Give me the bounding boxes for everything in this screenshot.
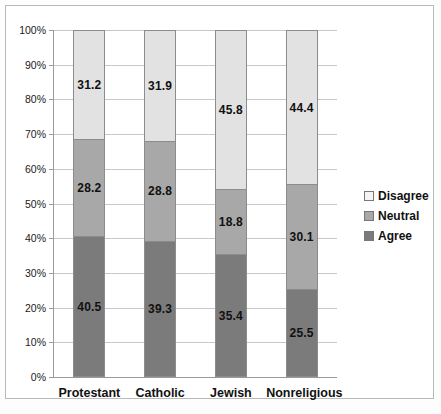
bar-value-label: 44.4 (290, 101, 314, 115)
y-axis-tick (49, 30, 54, 31)
bar-segment-agree[interactable]: 25.5 (286, 289, 318, 377)
category-label: Protestant (54, 386, 125, 400)
y-axis-tick (49, 377, 54, 378)
bar-value-label: 25.5 (290, 326, 314, 340)
chart-frame: 0%10%20%30%40%50%60%70%80%90%100% 40.528… (5, 5, 434, 399)
bar-value-label: 40.5 (77, 300, 101, 314)
y-axis-tick-label: 60% (25, 163, 46, 175)
y-axis-tick (49, 238, 54, 239)
bar-segment-disagree[interactable]: 45.8 (215, 30, 247, 189)
y-axis-tick-label: 50% (25, 198, 46, 210)
y-axis-tick-label: 100% (19, 24, 46, 36)
y-axis-tick (49, 273, 54, 274)
bar-value-label: 39.3 (148, 302, 172, 316)
category-label: Catholic (125, 386, 196, 400)
legend-label: Neutral (378, 209, 419, 223)
bar-segment-neutral[interactable]: 30.1 (286, 184, 318, 288)
bar-segment-neutral[interactable]: 28.2 (73, 139, 105, 237)
category-label: Jewish (195, 386, 266, 400)
legend-item-agree[interactable]: Agree (364, 229, 429, 243)
y-axis-tick-label: 30% (25, 267, 46, 279)
bar-segment-disagree[interactable]: 31.2 (73, 30, 105, 138)
bar-segment-agree[interactable]: 39.3 (144, 241, 176, 377)
y-axis-tick-label: 20% (25, 302, 46, 314)
bar-segment-agree[interactable]: 40.5 (73, 236, 105, 377)
bar-value-label: 28.8 (148, 184, 172, 198)
y-axis-tick (49, 99, 54, 100)
y-axis-tick (49, 169, 54, 170)
legend-swatch-icon (364, 191, 374, 201)
y-axis-tick-label: 90% (25, 59, 46, 71)
y-axis-tick (49, 65, 54, 66)
category-label: Nonreligious (266, 386, 337, 400)
chart-legend: DisagreeNeutralAgree (364, 189, 429, 249)
legend-item-disagree[interactable]: Disagree (364, 189, 429, 203)
bar-segment-agree[interactable]: 35.4 (215, 254, 247, 377)
bar-value-label: 30.1 (290, 230, 314, 244)
legend-label: Agree (378, 229, 412, 243)
y-axis-tick-label: 10% (25, 336, 46, 348)
y-axis-tick (49, 342, 54, 343)
bar-segment-disagree[interactable]: 44.4 (286, 30, 318, 184)
y-axis-tick-label: 80% (25, 93, 46, 105)
y-axis-tick-label: 70% (25, 128, 46, 140)
legend-swatch-icon (364, 211, 374, 221)
legend-item-neutral[interactable]: Neutral (364, 209, 429, 223)
bar-value-label: 18.8 (219, 215, 243, 229)
y-axis-tick-label: 40% (25, 232, 46, 244)
stacked-bar[interactable]: 40.528.231.2 (73, 30, 105, 377)
y-axis-tick (49, 134, 54, 135)
bar-segment-disagree[interactable]: 31.9 (144, 30, 176, 141)
legend-swatch-icon (364, 231, 374, 241)
bar-value-label: 28.2 (77, 181, 101, 195)
stacked-bar[interactable]: 39.328.831.9 (144, 30, 176, 377)
bar-segment-neutral[interactable]: 18.8 (215, 189, 247, 254)
y-axis-tick (49, 308, 54, 309)
legend-label: Disagree (378, 189, 429, 203)
stacked-bar[interactable]: 35.418.845.8 (215, 30, 247, 377)
y-axis-tick-label: 0% (31, 371, 46, 383)
bar-value-label: 35.4 (219, 309, 243, 323)
stacked-bar[interactable]: 25.530.144.4 (286, 30, 318, 377)
bar-value-label: 31.9 (148, 79, 172, 93)
plot-area: 0%10%20%30%40%50%60%70%80%90%100% 40.528… (53, 30, 337, 378)
bar-value-label: 31.2 (77, 78, 101, 92)
bar-value-label: 45.8 (219, 103, 243, 117)
y-axis-tick (49, 204, 54, 205)
bar-segment-neutral[interactable]: 28.8 (144, 141, 176, 241)
